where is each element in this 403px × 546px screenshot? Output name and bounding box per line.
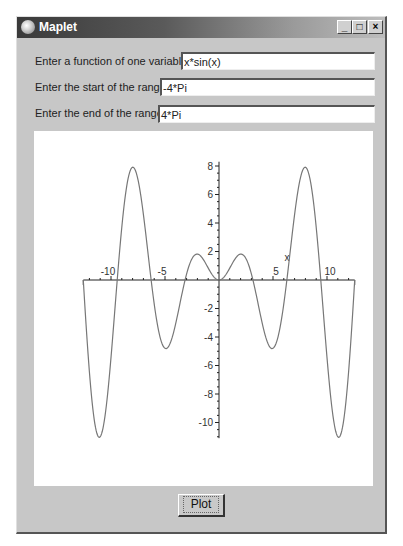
close-icon: × xyxy=(373,21,379,32)
maplet-window: Maplet _ □ × Enter a function of one var… xyxy=(16,16,387,534)
x-tick-label: 10 xyxy=(324,266,336,277)
plot-button-label: Plot xyxy=(183,496,220,513)
minimize-button[interactable]: _ xyxy=(337,20,352,34)
maximize-icon: □ xyxy=(356,21,362,32)
y-tick-label: 4 xyxy=(207,218,213,229)
x-tick-label: 5 xyxy=(273,266,279,277)
plot-button[interactable]: Plot xyxy=(178,494,225,517)
end-range-label: Enter the end of the range: xyxy=(35,107,166,119)
y-tick-label: 6 xyxy=(207,189,213,200)
y-tick-label: 2 xyxy=(207,246,213,257)
minimize-icon: _ xyxy=(342,21,348,32)
y-tick-label: -4 xyxy=(204,332,213,343)
function-label: Enter a function of one variable: xyxy=(35,55,190,67)
end-range-input[interactable]: 4*Pi xyxy=(158,105,375,123)
function-plot: -10-5510x8642-2-4-6-8-10 xyxy=(34,131,373,486)
maximize-button[interactable]: □ xyxy=(352,20,367,34)
function-input[interactable]: x*sin(x) xyxy=(181,52,375,70)
y-tick-label: -6 xyxy=(204,360,213,371)
y-tick-label: -8 xyxy=(204,389,213,400)
y-tick-label: 8 xyxy=(207,161,213,172)
x-tick-label: -5 xyxy=(158,266,167,277)
start-range-label: Enter the start of the range: xyxy=(35,81,169,93)
plot-area: -10-5510x8642-2-4-6-8-10 xyxy=(34,131,373,486)
title-bar[interactable]: Maplet _ □ × xyxy=(17,17,385,38)
y-tick-label: -10 xyxy=(199,417,214,428)
y-tick-label: -2 xyxy=(204,303,213,314)
maple-app-icon xyxy=(21,20,35,34)
window-title: Maplet xyxy=(39,20,77,34)
start-range-input[interactable]: -4*Pi xyxy=(160,78,375,96)
close-button[interactable]: × xyxy=(368,20,383,34)
x-tick-label: -10 xyxy=(101,266,116,277)
